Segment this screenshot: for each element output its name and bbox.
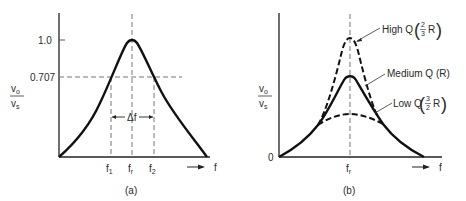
low-q-r: R	[433, 98, 440, 109]
x-tick-fr: fr	[128, 163, 134, 175]
medium-q-label: Medium Q (R)	[387, 68, 450, 79]
x-tick-f1: f1	[106, 163, 113, 175]
resonance-figure: Δf 1.0 0.707 vo vs f1 fr f2 f (a)	[0, 0, 466, 201]
y-tick-0707: 0.707	[30, 72, 55, 83]
caption-b: (b)	[343, 185, 355, 196]
y-label-num: vo	[11, 83, 20, 95]
high-q-frac-den: 3	[421, 30, 425, 37]
caption-a: (a)	[125, 185, 137, 196]
y-label-num-b: vo	[259, 83, 268, 95]
arrowhead-icon	[149, 115, 153, 119]
y-label-den: vs	[11, 98, 20, 110]
paren-close: )	[436, 20, 442, 40]
origin-label: 0	[268, 152, 274, 163]
leader-medium-q	[365, 74, 385, 86]
arrowhead-icon	[423, 165, 430, 170]
low-q-frac-num: 3	[426, 95, 430, 102]
arrowhead-icon	[198, 165, 205, 170]
arrowhead-icon	[356, 38, 362, 42]
paren-open: (	[419, 94, 425, 114]
panel-a: Δf 1.0 0.707 vo vs f1 fr f2 f (a)	[10, 13, 217, 196]
low-q-frac-den: 2	[426, 104, 430, 111]
high-q-r: R	[428, 24, 435, 35]
arrowhead-icon	[112, 115, 116, 119]
panel-b: High Q ( 2 3 R ) Medium Q (R) Low Q ( 3 …	[258, 13, 450, 196]
x-axis-label-b: f	[439, 162, 442, 173]
paren-open: (	[414, 20, 420, 40]
delta-f-label: Δf	[127, 112, 137, 123]
response-curve-a	[59, 40, 207, 157]
paren-close: )	[441, 94, 447, 114]
x-axis-label-a: f	[214, 162, 217, 173]
low-q-label: Low Q	[393, 98, 422, 109]
y-label-den-b: vs	[259, 98, 268, 110]
x-tick-fr-b: fr	[346, 163, 352, 175]
leader-low-q	[375, 103, 392, 113]
x-tick-f2: f2	[149, 163, 156, 175]
medium-q-curve	[279, 76, 424, 157]
y-tick-1-0: 1.0	[38, 35, 52, 46]
high-q-label: High Q	[382, 24, 413, 35]
high-q-frac-num: 2	[421, 21, 425, 28]
